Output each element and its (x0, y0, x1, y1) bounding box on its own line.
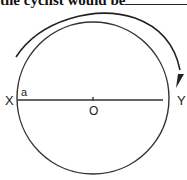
label-o: O (89, 104, 98, 118)
circle-diagram: X a O Y (0, 0, 187, 180)
label-a: a (21, 86, 28, 98)
arrowhead-icon (176, 74, 184, 88)
label-y: Y (177, 93, 186, 108)
label-x: X (5, 93, 14, 108)
